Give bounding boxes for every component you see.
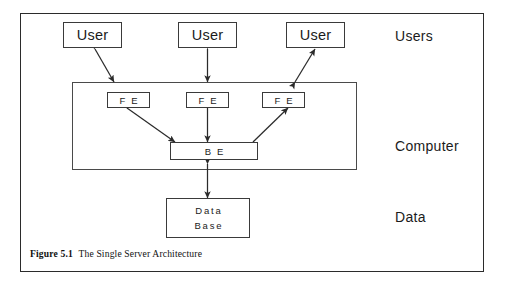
node-database[interactable]: Data Base bbox=[166, 198, 250, 238]
node-user-3-label: User bbox=[300, 27, 331, 43]
node-frontend-2-label: F E bbox=[197, 95, 218, 106]
figure-caption-number: Figure 5.1 bbox=[30, 248, 73, 259]
node-user-1-label: User bbox=[77, 27, 108, 43]
tier-label-computer: Computer bbox=[395, 138, 459, 154]
figure-caption: Figure 5.1 The Single Server Architectur… bbox=[30, 248, 202, 259]
node-user-1[interactable]: User bbox=[63, 22, 122, 48]
node-user-3[interactable]: User bbox=[286, 22, 345, 48]
figure-caption-text: The Single Server Architecture bbox=[75, 248, 202, 259]
node-frontend-3[interactable]: F E bbox=[262, 92, 305, 108]
node-frontend-1-label: F E bbox=[118, 95, 139, 106]
tier-label-users: Users bbox=[395, 28, 433, 44]
node-user-2-label: User bbox=[192, 27, 223, 43]
node-frontend-3-label: F E bbox=[273, 95, 294, 106]
node-database-label-line2: Base bbox=[193, 218, 224, 233]
node-frontend-1[interactable]: F E bbox=[107, 92, 150, 108]
node-frontend-2[interactable]: F E bbox=[186, 92, 229, 108]
node-user-2[interactable]: User bbox=[178, 22, 237, 48]
node-backend[interactable]: B E bbox=[170, 142, 258, 160]
tier-label-data: Data bbox=[395, 209, 426, 225]
node-database-label-line1: Data bbox=[193, 203, 222, 218]
node-backend-label: B E bbox=[203, 146, 225, 157]
